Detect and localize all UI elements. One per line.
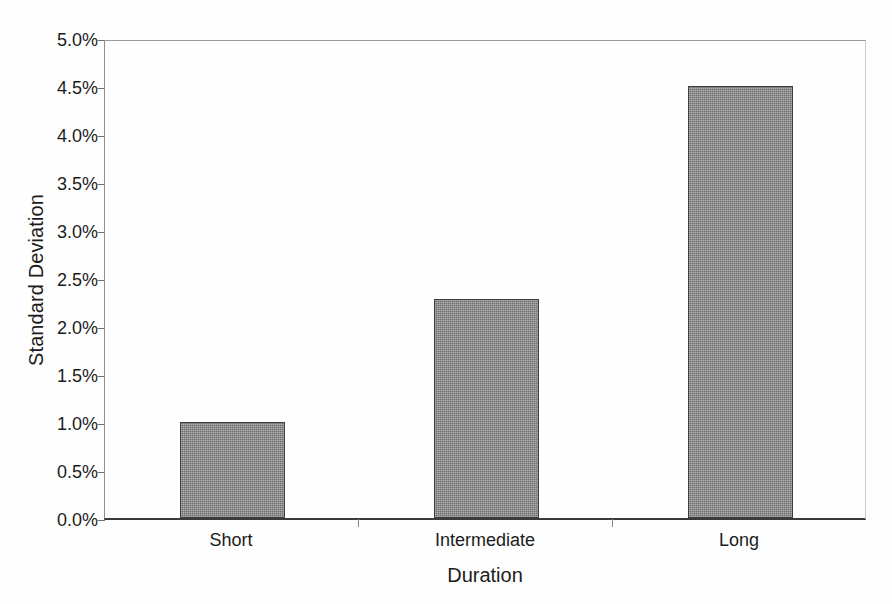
x-axis-title: Duration [104, 562, 866, 588]
y-axis-tick-label: 4.5% [24, 79, 98, 97]
plot-area [104, 40, 866, 520]
bar-chart-figure: Standard Deviation 0.0%0.5%1.0%1.5%2.0%2… [0, 0, 892, 604]
y-axis-tick-label: 1.0% [24, 415, 98, 433]
y-axis-tick-mark [98, 520, 105, 521]
y-axis-tick-label: 0.5% [24, 463, 98, 481]
y-axis-tick-label: 0.0% [24, 511, 98, 529]
y-axis-tick-label: 2.0% [24, 319, 98, 337]
y-axis-tick-label: 5.0% [24, 31, 98, 49]
x-axis-tick-label: Short [104, 529, 358, 551]
bar [434, 299, 539, 518]
x-axis-tick-label: Intermediate [358, 529, 612, 551]
bar [688, 86, 793, 518]
y-axis-tick-label: 3.5% [24, 175, 98, 193]
x-axis-tick-label: Long [612, 529, 866, 551]
y-axis-tick-label: 1.5% [24, 367, 98, 385]
y-axis-tick-labels: 0.0%0.5%1.0%1.5%2.0%2.5%3.0%3.5%4.0%4.5%… [20, 0, 98, 604]
x-axis-tick-mark [612, 519, 613, 527]
y-axis-tick-label: 2.5% [24, 271, 98, 289]
y-axis-tick-label: 3.0% [24, 223, 98, 241]
bar [180, 422, 285, 518]
y-axis-tick-label: 4.0% [24, 127, 98, 145]
x-axis-tick-mark [358, 519, 359, 527]
